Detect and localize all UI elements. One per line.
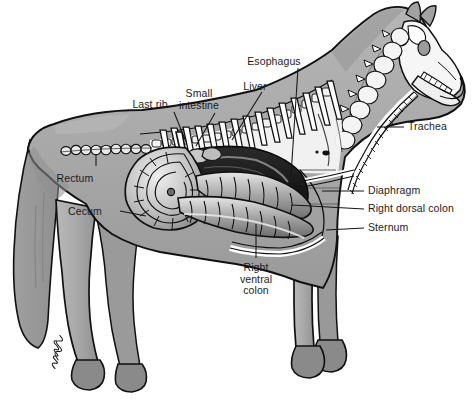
label-small-intestine: Smallintestine <box>171 88 227 111</box>
label-sternum: Sternum <box>368 222 408 234</box>
label-small-intestine-line2: intestine <box>179 99 219 111</box>
label-diaphragm: Diaphragm <box>368 185 420 197</box>
rectum <box>60 144 152 155</box>
label-last-rib: Last rib <box>122 99 178 111</box>
label-right-dorsal-colon: Right dorsal colon <box>368 203 454 215</box>
label-liver: Liver <box>233 81 277 93</box>
label-trachea: Trachea <box>408 121 447 133</box>
label-right-ventral-colon-line2: ventral <box>240 273 272 285</box>
label-esophagus: Esophagus <box>240 56 308 68</box>
label-right-ventral-colon-line1: Right <box>243 261 268 273</box>
label-cecum: Cecum <box>62 206 108 218</box>
label-rectum: Rectum <box>50 173 100 185</box>
label-right-ventral-colon: Rightventralcolon <box>228 262 284 297</box>
anatomy-figure: Last rib Smallintestine Liver Esophagus … <box>0 0 476 406</box>
label-right-ventral-colon-line3: colon <box>243 284 269 296</box>
label-small-intestine-line1: Small <box>186 87 213 99</box>
